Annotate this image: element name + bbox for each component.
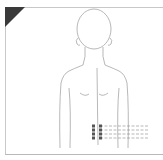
head [77, 9, 111, 49]
back-torso-figure [0, 0, 163, 160]
guide-lines [100, 126, 148, 138]
left-shoulder [60, 65, 83, 148]
spine-line [97, 68, 98, 145]
right-shoulder [105, 65, 128, 148]
acupoint-markers [92, 125, 102, 140]
